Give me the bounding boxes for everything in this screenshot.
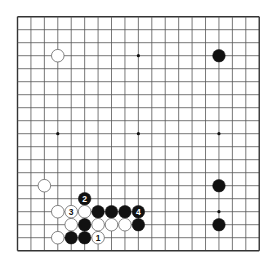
- black-stone: [78, 231, 91, 244]
- move-number-label: 1: [96, 233, 101, 243]
- star-point: [137, 54, 140, 57]
- black-stone: [65, 231, 78, 244]
- star-point: [56, 132, 59, 135]
- go-board-diagram: 2341: [0, 0, 276, 267]
- white-stone: [51, 231, 64, 244]
- move-number-label: 2: [82, 194, 87, 204]
- star-point: [217, 210, 220, 213]
- black-stone-move-2: 2: [78, 192, 91, 205]
- black-stone: [213, 218, 226, 231]
- star-point: [137, 132, 140, 135]
- white-stone: [65, 218, 78, 231]
- move-number-label: 3: [69, 207, 74, 217]
- move-number-label: 4: [136, 207, 141, 217]
- white-stone-move-3: 3: [65, 205, 78, 218]
- star-point: [217, 132, 220, 135]
- black-stone: [105, 205, 118, 218]
- black-stone: [132, 218, 145, 231]
- white-stone: [92, 218, 105, 231]
- black-stone: [78, 218, 91, 231]
- white-stone: [51, 49, 64, 62]
- white-stone: [51, 205, 64, 218]
- white-stone: [38, 179, 51, 192]
- black-stone: [213, 49, 226, 62]
- black-stone: [213, 179, 226, 192]
- white-stone: [119, 218, 132, 231]
- white-stone: [78, 205, 91, 218]
- white-stone: [105, 218, 118, 231]
- black-stone-move-4: 4: [132, 205, 145, 218]
- black-stone: [92, 205, 105, 218]
- black-stone: [119, 205, 132, 218]
- white-stone-move-1: 1: [92, 231, 105, 244]
